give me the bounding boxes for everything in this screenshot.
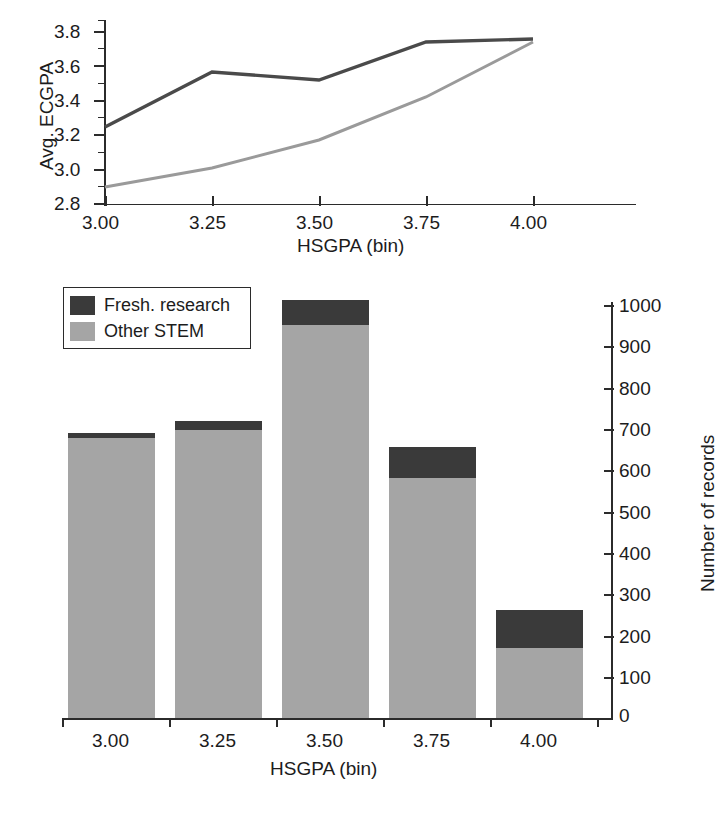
- line-y-minortick-5: [98, 152, 105, 153]
- line-x-tick-4.00: 4.00: [510, 212, 547, 234]
- line-chart-y-axis-title: Avg. ECGPA: [36, 62, 58, 170]
- line-y-majortick-3.0: [94, 169, 105, 171]
- bar-y-tick-200: [604, 636, 614, 638]
- bar-x-tick-2: [276, 718, 278, 727]
- bar-y-label-400: 400: [619, 543, 651, 565]
- bar-chart-x-axis-title: HSGPA (bin): [270, 758, 377, 780]
- bar-chart-y-axis-title: Number of records: [697, 435, 719, 592]
- figure-two-panel-chart: Avg. ECGPA 3.8 3.6 3.4 3.2 3.0 2.8: [0, 0, 722, 815]
- line-chart-series-svg: [105, 20, 637, 206]
- bar-segment-other-stem-4.00: [496, 648, 583, 718]
- bar-x-tick-4: [490, 718, 492, 727]
- bar-y-label-600: 600: [619, 460, 651, 482]
- line-chart-x-axis-title: HSGPA (bin): [297, 235, 404, 257]
- bar-y-label-800: 800: [619, 378, 651, 400]
- line-y-tick-3.0: 3.0: [54, 159, 80, 181]
- bar-x-label-4.00: 4.00: [520, 730, 557, 752]
- bar-y-label-900: 900: [619, 336, 651, 358]
- bar-y-label-200: 200: [619, 626, 651, 648]
- bar-y-label-300: 300: [619, 584, 651, 606]
- bar-column-3.50: [282, 300, 369, 718]
- bar-y-tick-1000: [604, 305, 614, 307]
- bar-y-tick-300: [604, 594, 614, 596]
- bar-column-4.00: [496, 610, 583, 718]
- bar-segment-other-stem-3.00: [68, 438, 155, 718]
- bar-y-label-700: 700: [619, 419, 651, 441]
- bar-y-tick-800: [604, 388, 614, 390]
- bar-y-tick-700: [604, 429, 614, 431]
- legend-label-fresh-research: Fresh. research: [104, 295, 230, 316]
- line-y-tick-3.8: 3.8: [54, 21, 80, 43]
- line-series-other-stem: [105, 42, 533, 187]
- bar-column-3.25: [175, 421, 262, 718]
- bar-y-label-500: 500: [619, 502, 651, 524]
- legend-item-fresh-research: Fresh. research: [70, 292, 244, 318]
- line-y-minortick-4: [98, 117, 105, 118]
- line-y-majortick-3.6: [94, 65, 105, 67]
- line-x-tick-3.25: 3.25: [189, 212, 226, 234]
- bar-segment-other-stem-3.25: [175, 430, 262, 718]
- bar-segment-other-stem-3.75: [389, 478, 476, 718]
- line-y-majortick-3.2: [94, 134, 105, 136]
- bar-chart-plot-area: [68, 298, 603, 718]
- line-chart-panel: Avg. ECGPA 3.8 3.6 3.4 3.2 3.0 2.8: [0, 0, 722, 255]
- bar-y-tick-400: [604, 553, 614, 555]
- bar-y-tick-500: [604, 512, 614, 514]
- legend-item-other-stem: Other STEM: [70, 318, 244, 344]
- bar-x-label-3.75: 3.75: [413, 730, 450, 752]
- bar-y-tick-900: [604, 346, 614, 348]
- bar-x-label-3.25: 3.25: [199, 730, 236, 752]
- bar-y-label-100: 100: [619, 667, 651, 689]
- line-x-tick-3.50: 3.50: [296, 212, 333, 234]
- bar-segment-fresh-research-3.25: [175, 421, 262, 430]
- line-y-majortick-3.4: [94, 100, 105, 102]
- bar-y-tick-100: [604, 677, 614, 679]
- line-x-tick-3.75: 3.75: [403, 212, 440, 234]
- line-y-minortick-3: [98, 83, 105, 84]
- bar-x-label-3.50: 3.50: [306, 730, 343, 752]
- bar-chart-y-axis: [611, 302, 613, 720]
- bar-x-tick-left-end: [62, 718, 64, 727]
- line-y-minortick-2: [98, 48, 105, 49]
- line-y-majortick-3.8: [94, 31, 105, 33]
- bar-x-tick-3: [383, 718, 385, 727]
- chart-legend: Fresh. research Other STEM: [63, 287, 251, 349]
- bar-segment-fresh-research-3.50: [282, 300, 369, 325]
- line-series-fresh-research: [105, 39, 533, 127]
- bar-x-tick-1: [169, 718, 171, 727]
- line-y-tick-3.2: 3.2: [54, 124, 80, 146]
- bar-segment-other-stem-3.50: [282, 325, 369, 718]
- bar-chart-x-axis: [62, 718, 612, 720]
- bar-segment-fresh-research-4.00: [496, 610, 583, 648]
- line-y-minortick-6: [98, 186, 105, 187]
- bar-y-tick-600: [604, 470, 614, 472]
- line-y-tick-3.6: 3.6: [54, 56, 80, 78]
- legend-swatch-fresh-research: [70, 296, 95, 315]
- bar-x-label-3.00: 3.00: [92, 730, 129, 752]
- bar-column-3.75: [389, 447, 476, 718]
- bar-x-tick-right-end: [597, 718, 599, 727]
- line-y-minortick-1: [98, 20, 105, 21]
- line-y-tick-2.8: 2.8: [54, 193, 80, 215]
- line-y-majortick-2.8: [94, 203, 105, 205]
- bar-column-3.00: [68, 433, 155, 718]
- legend-swatch-other-stem: [70, 322, 95, 341]
- line-y-tick-3.4: 3.4: [54, 90, 80, 112]
- line-x-tick-3.00: 3.00: [82, 212, 119, 234]
- bar-y-label-0: 0: [619, 705, 630, 727]
- bar-y-label-1000: 1000: [619, 295, 661, 317]
- legend-label-other-stem: Other STEM: [104, 321, 204, 342]
- bar-segment-fresh-research-3.75: [389, 447, 476, 478]
